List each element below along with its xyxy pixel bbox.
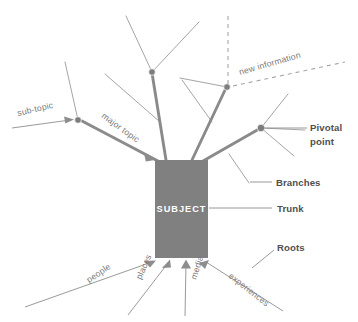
sub-topic-arrow-group xyxy=(12,117,74,128)
new-information-dashes xyxy=(228,16,345,86)
twig-pivotal-upright xyxy=(261,94,288,128)
node-pivotal-point xyxy=(257,124,265,132)
sub-topic-arrowhead xyxy=(64,117,74,124)
callout-pivotal-point-line1: Pivotal xyxy=(310,122,342,133)
twig-newinfo-lower xyxy=(182,80,212,122)
diagram-canvas: SUBJECT xyxy=(0,0,358,322)
leader-roots xyxy=(252,250,274,268)
twig-group xyxy=(65,16,305,183)
label-media: media xyxy=(188,254,205,280)
root-arrowhead-places xyxy=(162,260,171,269)
twig-midnode-upright xyxy=(152,22,199,72)
node-sub-topic xyxy=(75,117,82,124)
callout-trunk: Trunk xyxy=(277,203,304,214)
twig-pivotal-downright xyxy=(261,128,294,156)
root-line-places xyxy=(128,263,168,315)
twig-branch-callout xyxy=(229,154,249,183)
twig-midnode-upleft xyxy=(126,16,152,72)
node-mid-branch xyxy=(149,69,156,76)
callout-roots: Roots xyxy=(277,242,305,253)
node-new-information xyxy=(224,84,231,91)
root-line-people xyxy=(25,262,152,307)
label-new-information: new information xyxy=(238,50,302,77)
twig-subtopic-up xyxy=(65,62,78,120)
node-group xyxy=(75,69,265,132)
callout-branches: Branches xyxy=(276,177,321,188)
subject-label: SUBJECT xyxy=(157,204,207,214)
root-line-media xyxy=(185,263,186,316)
sub-topic-line xyxy=(12,120,70,128)
tree-diagram: SUBJECT xyxy=(0,0,358,322)
label-experiences: experiences xyxy=(227,271,271,309)
label-major-topic: major topic xyxy=(100,111,142,145)
root-arrowhead-media xyxy=(181,260,191,269)
callout-pivotal-point-line2: point xyxy=(310,136,335,147)
twig-newinfo-downleft xyxy=(180,78,227,87)
label-sub-topic: sub-topic xyxy=(16,100,54,118)
